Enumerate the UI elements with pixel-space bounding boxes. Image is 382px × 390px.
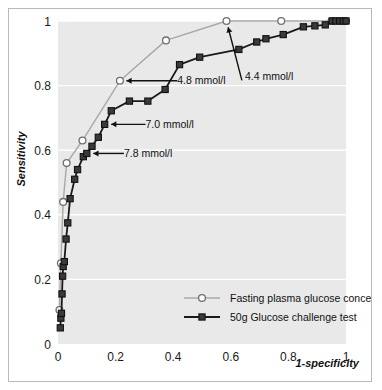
data-point-marker (126, 98, 132, 104)
y-tick-label: 1 (44, 15, 51, 29)
data-point-marker (89, 143, 95, 149)
data-point-marker (312, 23, 318, 29)
data-point-marker (79, 137, 86, 144)
data-point-marker (84, 150, 90, 156)
y-tick-label: 0.2 (34, 273, 51, 287)
data-point-marker (263, 36, 269, 42)
legend-label: Fasting plasma glucose concentration (230, 292, 371, 304)
data-point-marker (343, 18, 349, 24)
data-point-marker (108, 108, 114, 114)
x-tick-label: 0.2 (107, 350, 124, 364)
data-point-marker (145, 98, 151, 104)
data-point-marker (163, 37, 170, 44)
data-point-marker (102, 121, 108, 127)
data-point-marker (61, 259, 67, 265)
y-tick-label: 0 (44, 338, 51, 352)
data-point-marker (162, 86, 168, 92)
legend-label: 50g Glucose challenge test (230, 311, 357, 323)
data-point-marker (60, 273, 66, 279)
legend-marker (199, 314, 205, 320)
data-point-marker (60, 198, 67, 205)
data-point-marker (59, 291, 65, 297)
roc-chart: 00.20.40.60.81 00.20.40.60.81 4.4 mmol/l… (9, 9, 371, 381)
figure-frame: 00.20.40.60.81 00.20.40.60.81 4.4 mmol/l… (8, 8, 372, 382)
annotation-label: 7.0 mmol/l (146, 118, 194, 130)
data-point-marker (74, 166, 80, 172)
data-point-marker (72, 176, 78, 182)
y-tick-label: 0.8 (34, 79, 51, 93)
y-tick-label: 0.4 (34, 208, 51, 222)
data-point-marker (58, 310, 64, 316)
data-point-marker (117, 77, 124, 84)
annotation-label: 7.8 mmol/l (124, 147, 172, 159)
data-point-marker (223, 18, 230, 25)
y-axis-tick-labels: 00.20.40.60.81 (34, 15, 51, 352)
data-point-marker (254, 39, 260, 45)
data-point-marker (278, 18, 285, 25)
data-point-marker (197, 54, 203, 60)
x-tick-label: 0.6 (222, 350, 239, 364)
data-point-marker (57, 325, 63, 331)
legend-marker (199, 295, 206, 302)
data-point-marker (322, 22, 328, 28)
data-point-marker (176, 62, 182, 68)
annotation-label: 4.4 mmol/l (245, 70, 293, 82)
data-point-marker (63, 236, 69, 242)
x-tick-label: 0 (55, 350, 62, 364)
y-axis-title: Sensitivity (15, 131, 27, 187)
y-tick-label: 0.6 (34, 144, 51, 158)
data-point-marker (280, 31, 286, 37)
data-point-marker (63, 160, 70, 167)
data-point-marker (67, 196, 73, 202)
annotation-label: 4.8 mmol/l (177, 74, 225, 86)
data-point-marker (236, 46, 242, 52)
data-point-marker (65, 220, 71, 226)
data-point-marker (95, 134, 101, 140)
x-axis-title: 1-specificity (295, 357, 359, 369)
data-point-marker (300, 24, 306, 30)
x-tick-label: 0.4 (165, 350, 182, 364)
